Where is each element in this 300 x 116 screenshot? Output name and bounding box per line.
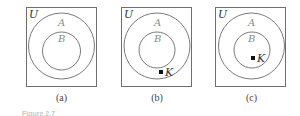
set-a-label: A <box>57 17 65 28</box>
universe-label: U <box>124 8 134 21</box>
element-point <box>251 56 255 60</box>
element-label: K <box>164 66 174 79</box>
universe-label: U <box>29 8 39 21</box>
panel-caption: (a) <box>56 92 67 104</box>
set-b-label: B <box>153 33 161 44</box>
panel-c: U A B K (c) <box>216 8 286 105</box>
panel-caption: (b) <box>151 92 163 104</box>
element-label: K <box>256 52 266 65</box>
panel-a: U A B (a) <box>27 8 97 105</box>
element-point <box>159 70 163 74</box>
figure-caption: Figure 2.7 <box>22 110 55 116</box>
universe-label: U <box>218 8 228 21</box>
venn-diagram-figure: U A B (a) U A B K (b) U A B K (c) Figure… <box>0 0 300 116</box>
set-a-label: A <box>153 17 161 28</box>
panel-caption: (c) <box>246 92 257 104</box>
panel-b: U A B K (b) <box>122 8 192 105</box>
set-a-label: A <box>247 17 255 28</box>
set-b-label: B <box>57 33 65 44</box>
set-b-label: B <box>247 33 255 44</box>
